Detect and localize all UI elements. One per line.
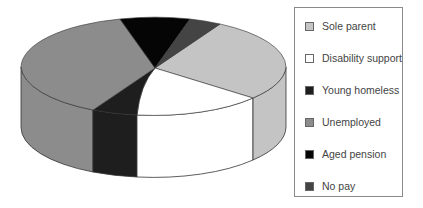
legend-item-disability-support: Disability support <box>305 51 402 65</box>
legend-item-young-homeless: Young homeless <box>305 83 399 97</box>
legend-item-unemployed: Unemployed <box>305 115 381 129</box>
legend-swatch-icon <box>305 182 314 191</box>
legend-swatch-icon <box>305 86 314 95</box>
pie-chart <box>0 0 290 208</box>
legend-label: Disability support <box>322 52 402 64</box>
legend-swatch-icon <box>305 118 314 127</box>
legend-item-aged-pension: Aged pension <box>305 147 386 161</box>
pie-top-face <box>21 17 286 115</box>
legend-swatch-icon <box>305 150 314 159</box>
legend-label: Sole parent <box>322 20 376 32</box>
legend-label: Unemployed <box>322 116 381 128</box>
legend-label: Aged pension <box>322 148 386 160</box>
legend-swatch-icon <box>305 22 314 31</box>
legend-item-no-pay: No pay <box>305 179 355 193</box>
legend-label: Young homeless <box>322 84 399 96</box>
legend-item-sole-parent: Sole parent <box>305 19 376 33</box>
legend-swatch-icon <box>305 54 314 63</box>
legend-label: No pay <box>322 180 355 192</box>
slice-side-young-homeless <box>93 110 137 177</box>
chart-legend: Sole parent Disability support Young hom… <box>294 7 403 197</box>
